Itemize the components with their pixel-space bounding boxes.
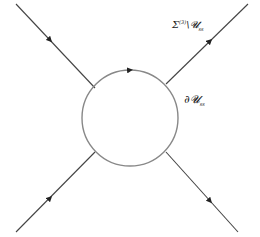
line-top-left: [16, 4, 95, 88]
loop-circle: [82, 70, 178, 166]
line-top-right: [166, 4, 248, 84]
boundary-label: ∂𝓤ss: [184, 93, 205, 107]
diagram-canvas: Σ(3)\𝓤ss ∂𝓤ss: [0, 0, 260, 237]
line-bottom-left: [16, 152, 95, 232]
diagram-svg: [0, 0, 260, 237]
line-bottom-right: [166, 152, 238, 232]
outer-region-label: Σ(3)\𝓤ss: [172, 19, 204, 32]
